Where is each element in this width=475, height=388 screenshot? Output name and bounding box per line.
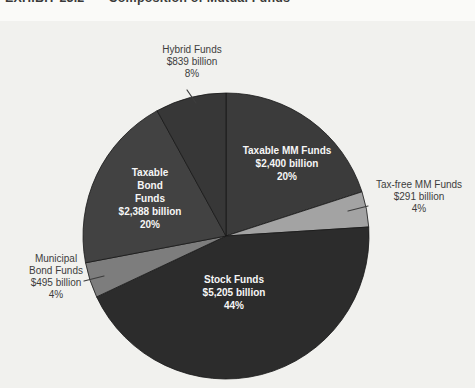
slice-name: Stock Funds <box>203 273 266 286</box>
pie-slices <box>83 93 369 379</box>
slice-percent: 20% <box>243 170 332 183</box>
slice-percent: 8% <box>162 68 221 80</box>
slice-percent: 4% <box>376 203 462 215</box>
slice-name: Hybrid Funds <box>162 44 221 56</box>
slice-amount: $5,205 billion <box>203 286 266 299</box>
slice-label-taxable-bond-funds: Taxable Bond Funds $2,388 billion 20% <box>119 166 182 231</box>
slice-percent: 44% <box>203 299 266 312</box>
slice-percent: 4% <box>25 289 87 301</box>
slice-name: Taxable Bond Funds <box>121 166 179 205</box>
slice-label-hybrid-funds: Hybrid Funds $839 billion 8% <box>162 44 221 80</box>
slice-amount: $495 billion <box>25 277 87 289</box>
exhibit-figure: EXHIBIT 23.2Composition of Mutual Funds … <box>0 0 475 388</box>
slice-label-stock-funds: Stock Funds $5,205 billion 44% <box>203 273 266 312</box>
slice-label-tax-free-mm-funds: Tax-free MM Funds $291 billion 4% <box>376 179 462 215</box>
slice-label-taxable-mm-funds: Taxable MM Funds $2,400 billion 20% <box>243 144 332 183</box>
slice-name: Municipal Bond Funds <box>25 253 87 277</box>
slice-name: Tax-free MM Funds <box>376 179 462 191</box>
slice-label-municipal-bond-funds: Municipal Bond Funds $495 billion 4% <box>25 253 87 301</box>
slice-percent: 20% <box>119 218 182 231</box>
slice-name: Taxable MM Funds <box>243 144 332 157</box>
slice-amount: $2,388 billion <box>119 205 182 218</box>
slice-amount: $291 billion <box>376 191 462 203</box>
slice-amount: $2,400 billion <box>243 157 332 170</box>
slice-amount: $839 billion <box>162 56 221 68</box>
